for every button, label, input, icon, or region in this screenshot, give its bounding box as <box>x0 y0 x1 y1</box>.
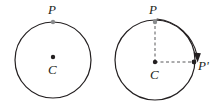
point-label-p-left: P <box>47 2 56 17</box>
circle-outline-left <box>15 22 91 98</box>
geometry-figure: P C P C P' <box>0 0 218 111</box>
point-p-marker-right <box>153 20 157 24</box>
point-p-marker-left <box>51 20 55 24</box>
center-label-c-left: C <box>48 62 57 77</box>
rotation-arc-path <box>157 19 197 55</box>
point-label-p-prime: P' <box>197 58 209 73</box>
center-point-marker-left <box>51 55 55 59</box>
center-point-marker-right <box>153 60 157 64</box>
figure-root: P C P C P' <box>0 0 218 111</box>
center-label-c-right: C <box>150 67 159 82</box>
point-p-prime-marker <box>192 60 197 65</box>
point-label-p-right: P <box>148 2 157 17</box>
panel-right: P C P' <box>115 2 209 100</box>
panel-left: P C <box>15 2 91 98</box>
